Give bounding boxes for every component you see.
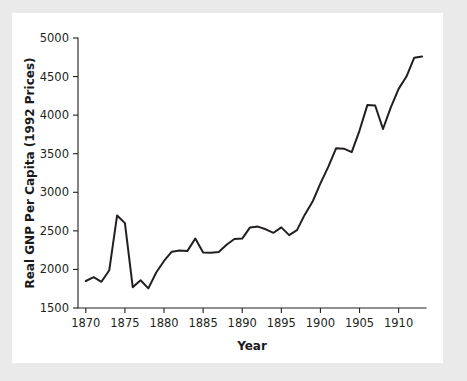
y-axis-ticks: 15002000250030003500400045005000 (40, 31, 78, 315)
x-tick-label: 1905 (345, 316, 374, 330)
y-axis-title: Real GNP Per Capita (1992 Prices) (23, 57, 37, 288)
y-tick-label: 5000 (40, 31, 69, 45)
data-series-line (86, 57, 422, 289)
x-tick-label: 1890 (228, 316, 257, 330)
x-axis-title: Year (236, 339, 267, 353)
x-tick-label: 1875 (110, 316, 139, 330)
x-tick-label: 1900 (306, 316, 335, 330)
x-axis-ticks: 187018751880188518901895190019051910 (71, 308, 413, 330)
x-tick-label: 1895 (267, 316, 296, 330)
figure-card: 15002000250030003500400045005000 1870187… (12, 13, 443, 363)
y-tick-label: 4000 (40, 108, 69, 122)
y-tick-label: 2000 (40, 262, 69, 276)
y-tick-label: 2500 (40, 224, 69, 238)
figure-frame: 15002000250030003500400045005000 1870187… (0, 0, 467, 381)
y-tick-label: 3500 (40, 147, 69, 161)
y-tick-label: 4500 (40, 70, 69, 84)
x-tick-label: 1885 (188, 316, 217, 330)
y-tick-label: 1500 (40, 301, 69, 315)
x-tick-label: 1880 (149, 316, 178, 330)
x-tick-label: 1870 (71, 316, 100, 330)
y-tick-label: 3000 (40, 185, 69, 199)
gnp-per-capita-line-chart: 15002000250030003500400045005000 1870187… (12, 13, 443, 363)
chart-canvas: 15002000250030003500400045005000 1870187… (12, 13, 443, 363)
x-tick-label: 1910 (384, 316, 413, 330)
